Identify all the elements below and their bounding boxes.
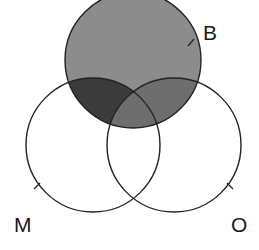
- set-m-label: M: [14, 213, 32, 236]
- venn-diagram: B M O: [0, 0, 259, 250]
- set-m-label-tick: [34, 183, 40, 189]
- set-o-label: O: [231, 213, 247, 236]
- set-o-label-tick: [227, 183, 233, 189]
- set-b-label: B: [203, 21, 217, 44]
